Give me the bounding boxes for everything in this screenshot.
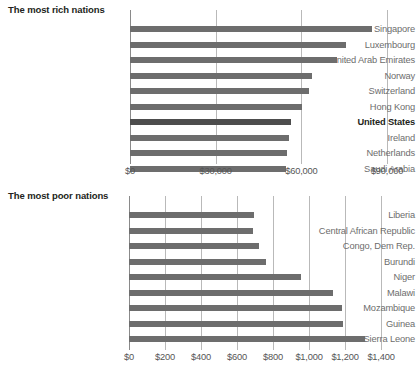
bar-singapore xyxy=(130,26,372,32)
bar-row: Sierra Leone xyxy=(0,332,415,346)
bar-row: Guinea xyxy=(0,317,415,331)
bar-label-liberia: Liberia xyxy=(290,208,415,222)
bar-ireland xyxy=(130,135,289,141)
bar-label-hong-kong: Hong Kong xyxy=(289,100,415,114)
bar-label-ireland: Ireland xyxy=(289,131,415,145)
bar-united-arab-emirates xyxy=(130,57,337,63)
bar-congo-dem-rep xyxy=(129,243,259,249)
bar-row: Central African Republic xyxy=(0,224,415,238)
bar-row: Hong Kong xyxy=(0,100,415,114)
bar-switzerland xyxy=(130,88,309,94)
bar-malawi xyxy=(129,290,333,296)
plot-area-rich: SingaporeLuxembourgUnited Arab EmiratesN… xyxy=(0,0,415,184)
bar-netherlands xyxy=(130,150,287,156)
bar-label-niger: Niger xyxy=(290,270,415,284)
x-tick-label-rich-2: $60,000 xyxy=(271,166,331,177)
bar-luxembourg xyxy=(130,42,346,48)
bar-label-central-african-republic: Central African Republic xyxy=(290,224,415,238)
x-tick-label-rich-3: $90,000 xyxy=(357,166,417,177)
bar-row: Congo, Dem Rep. xyxy=(0,239,415,253)
bar-niger xyxy=(129,274,301,280)
bar-row: United Arab Emirates xyxy=(0,53,415,67)
x-tick-label-poor-7: $1,400 xyxy=(351,352,411,363)
bar-row: United States xyxy=(0,115,415,129)
bar-norway xyxy=(130,73,312,79)
bar-row: Malawi xyxy=(0,286,415,300)
x-tick-label-rich-1: $30,000 xyxy=(186,166,246,177)
bar-united-states xyxy=(130,119,291,125)
bar-sierra-leone xyxy=(129,336,365,342)
bar-label-burundi: Burundi xyxy=(290,255,415,269)
plot-area-poor: LiberiaCentral African RepublicCongo, De… xyxy=(0,186,415,370)
bar-mozambique xyxy=(129,305,342,311)
bar-liberia xyxy=(129,212,254,218)
chart-panel-rich-nations: The most rich nations SingaporeLuxembour… xyxy=(0,0,415,184)
bar-row: Ireland xyxy=(0,131,415,145)
bar-row: Norway xyxy=(0,69,415,83)
bar-central-african-republic xyxy=(129,228,253,234)
bar-row: Netherlands xyxy=(0,146,415,160)
bar-row: Singapore xyxy=(0,22,415,36)
bar-guinea xyxy=(129,321,343,327)
bar-row: Niger xyxy=(0,270,415,284)
bar-hong-kong xyxy=(130,104,302,110)
chart-panel-poor-nations: The most poor nations LiberiaCentral Afr… xyxy=(0,186,415,370)
bar-burundi xyxy=(129,259,266,265)
bar-row: Luxembourg xyxy=(0,38,415,52)
bar-row: Switzerland xyxy=(0,84,415,98)
x-tick-label-rich-0: $0 xyxy=(100,166,160,177)
bar-label-united-states: United States xyxy=(289,115,415,129)
bar-row: Mozambique xyxy=(0,301,415,315)
bar-label-netherlands: Netherlands xyxy=(289,146,415,160)
bar-label-congo-dem-rep: Congo, Dem Rep. xyxy=(290,239,415,253)
bar-row: Liberia xyxy=(0,208,415,222)
bar-row: Burundi xyxy=(0,255,415,269)
